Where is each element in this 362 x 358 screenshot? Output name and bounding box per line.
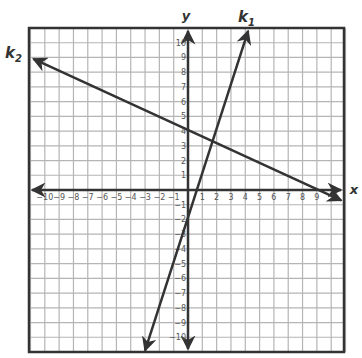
x-tick-label: 4 bbox=[243, 193, 248, 202]
y-tick-label: 6 bbox=[181, 98, 186, 107]
x-tick-label: 3 bbox=[228, 193, 233, 202]
x-tick-label: −3 bbox=[139, 193, 151, 202]
y-tick-label: −7 bbox=[174, 289, 186, 298]
y-axis-label: y bbox=[182, 8, 191, 23]
x-tick-label: −8 bbox=[68, 193, 80, 202]
y-tick-label: −9 bbox=[174, 319, 186, 328]
x-tick-label: −4 bbox=[125, 193, 137, 202]
y-tick-label: −6 bbox=[174, 274, 186, 283]
x-tick-label: 5 bbox=[257, 193, 262, 202]
x-tick-label: −6 bbox=[96, 193, 108, 202]
x-tick-label: −7 bbox=[82, 193, 94, 202]
y-tick-label: 3 bbox=[181, 142, 186, 151]
y-tick-label: −5 bbox=[174, 260, 186, 269]
x-tick-label: −10 bbox=[36, 193, 53, 202]
x-tick-label: −2 bbox=[153, 193, 165, 202]
x-tick-label: −5 bbox=[111, 193, 123, 202]
x-tick-label: 1 bbox=[200, 193, 205, 202]
y-tick-label: 5 bbox=[181, 112, 186, 121]
y-tick-label: −1 bbox=[174, 201, 186, 210]
y-tick-label: 1 bbox=[181, 171, 186, 180]
y-tick-label: 7 bbox=[181, 83, 186, 92]
y-tick-label: −8 bbox=[174, 304, 186, 313]
y-tick-label: −2 bbox=[174, 215, 186, 224]
x-tick-label: 2 bbox=[214, 193, 219, 202]
y-tick-label: 2 bbox=[181, 157, 186, 166]
y-tick-label: 9 bbox=[181, 53, 186, 62]
y-tick-label: −10 bbox=[169, 333, 186, 342]
x-tick-label: 8 bbox=[300, 193, 305, 202]
x-tick-label: 6 bbox=[271, 193, 276, 202]
y-tick-label: 8 bbox=[181, 68, 186, 77]
x-tick-label: 9 bbox=[314, 193, 319, 202]
x-tick-label: −9 bbox=[53, 193, 65, 202]
coordinate-plane: −10−9−8−7−6−5−4−3−2−11234567891098765432… bbox=[0, 0, 362, 358]
x-tick-label: 7 bbox=[286, 193, 291, 202]
x-axis-label: x bbox=[349, 182, 359, 197]
line-label-k2: k2 bbox=[5, 44, 22, 64]
y-tick-label: 10 bbox=[176, 39, 186, 48]
line-label-k1: k1 bbox=[238, 8, 255, 28]
